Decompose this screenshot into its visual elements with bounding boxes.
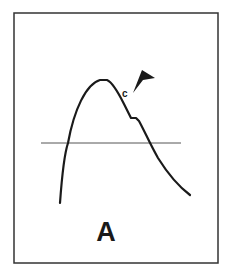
- panel-label: A: [92, 218, 120, 246]
- point-label-c: c: [122, 89, 128, 99]
- arrowhead-icon: [133, 70, 155, 93]
